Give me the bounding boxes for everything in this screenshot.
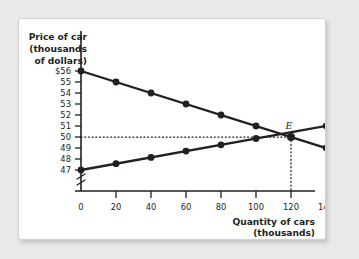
y-tick-label-49: 49 bbox=[60, 143, 71, 153]
equilibrium-point-label: E bbox=[285, 120, 293, 131]
x-tick-label-0: 0 bbox=[78, 202, 83, 212]
demand-point-0 bbox=[78, 68, 85, 75]
y-axis-title-line3: of dollars) bbox=[34, 56, 87, 66]
supply-demand-chart: Price of car (thousands of dollars) $56 … bbox=[19, 19, 325, 239]
figure-panel: Price of car (thousands of dollars) $56 … bbox=[18, 18, 326, 240]
supply-point-140 bbox=[323, 123, 325, 130]
equilibrium-point-marker bbox=[287, 133, 295, 141]
demand-point-100 bbox=[253, 123, 260, 130]
chart-plot-area: Price of car (thousands of dollars) $56 … bbox=[19, 19, 325, 239]
y-axis-title-line1: Price of car bbox=[29, 32, 88, 42]
x-tick-label-20: 20 bbox=[111, 202, 122, 212]
y-tick-label-54: 54 bbox=[60, 88, 71, 98]
y-tick-label-47: 47 bbox=[60, 165, 71, 175]
y-tick-label-51: 51 bbox=[60, 121, 71, 131]
x-axis-title-line1: Quantity of cars bbox=[232, 217, 315, 227]
supply-point-60 bbox=[183, 148, 190, 155]
y-tick-label-53: 53 bbox=[60, 99, 71, 109]
demand-point-40 bbox=[148, 90, 155, 97]
x-tick-label-60: 60 bbox=[181, 202, 192, 212]
demand-point-20 bbox=[113, 79, 120, 86]
demand-point-140 bbox=[323, 145, 325, 152]
y-tick-label-56: $56 bbox=[55, 66, 71, 76]
supply-point-40 bbox=[148, 154, 155, 161]
supply-point-80 bbox=[218, 141, 225, 148]
x-tick-label-100: 100 bbox=[248, 202, 264, 212]
y-tick-label-55: 55 bbox=[60, 77, 71, 87]
y-axis-title-line2: (thousands bbox=[29, 44, 87, 54]
demand-point-60 bbox=[183, 101, 190, 108]
x-tick-label-80: 80 bbox=[216, 202, 227, 212]
y-tick-label-52: 52 bbox=[60, 110, 71, 120]
y-tick-label-50: 50 bbox=[60, 132, 71, 142]
x-axis-title-line2: (thousands) bbox=[253, 228, 315, 238]
demand-point-80 bbox=[218, 112, 225, 119]
supply-point-100 bbox=[253, 135, 260, 142]
x-tick-label-120: 120 bbox=[283, 202, 299, 212]
x-tick-label-140: 140 bbox=[318, 202, 325, 212]
x-tick-label-40: 40 bbox=[146, 202, 157, 212]
supply-point-20 bbox=[113, 160, 120, 167]
supply-point-0 bbox=[78, 167, 85, 174]
y-tick-label-48: 48 bbox=[60, 154, 71, 164]
